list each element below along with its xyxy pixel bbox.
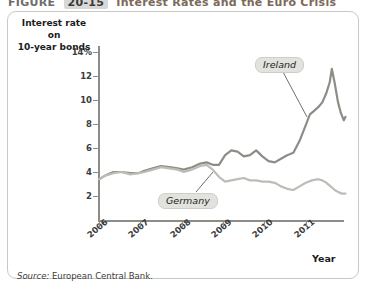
source-note: Source: European Central Bank.: [17, 271, 153, 281]
x-axis-title: Year: [312, 253, 336, 264]
y-axis-tick: [93, 52, 100, 53]
x-axis-tick: [306, 220, 307, 227]
series-label-germany: Germany: [158, 193, 218, 209]
y-axis-tick: [93, 148, 100, 149]
series-line-ireland: [99, 69, 345, 179]
source-keyword: Source:: [17, 271, 49, 281]
x-axis-tick: [182, 220, 183, 227]
x-axis-tick: [140, 220, 141, 227]
chart-plot-area: [0, 0, 370, 289]
leader-line-germany: [196, 172, 213, 192]
y-axis-tick: [93, 124, 100, 125]
y-axis-tick: [93, 196, 100, 197]
y-axis-tick: [93, 100, 100, 101]
source-text: European Central Bank.: [49, 271, 153, 281]
leader-line-ireland: [283, 72, 307, 117]
x-axis-tick: [223, 220, 224, 227]
figure-container: FIGURE 20-15 Interest Rates and the Euro…: [0, 0, 370, 289]
series-label-ireland: Ireland: [255, 57, 304, 73]
series-line-germany: [99, 165, 345, 194]
x-axis-tick: [99, 220, 100, 227]
y-axis-tick: [93, 76, 100, 77]
x-axis-tick: [264, 220, 265, 227]
y-axis-tick: [93, 172, 100, 173]
